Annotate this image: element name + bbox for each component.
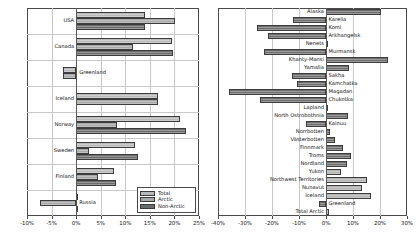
- category-label-norway: Norway: [0, 122, 74, 127]
- bar-arctic-iceland: [76, 99, 158, 104]
- bar-yamalia: [326, 65, 349, 71]
- xtick-label-4: 0%: [313, 221, 339, 226]
- bar-texture: [327, 178, 366, 182]
- category-label-alaska: Alaska: [228, 9, 324, 14]
- xtick-4: [326, 216, 327, 219]
- bar-kainuu: [306, 121, 326, 127]
- category-label-norrbotten: Norrbotten: [228, 129, 324, 134]
- zero-axis-line: [76, 8, 77, 216]
- bar-texture: [327, 130, 329, 134]
- category-label-finnmark: Finnmark: [228, 145, 324, 150]
- bar-chukotka: [260, 97, 326, 103]
- category-label-murmansk: Murmansk: [329, 49, 418, 54]
- category-label-lapland: Lapland: [228, 105, 324, 110]
- bar-texture: [327, 170, 340, 174]
- bar-arctic-greenland: [63, 73, 76, 78]
- bar-vsterbotten: [326, 137, 335, 143]
- xtick-0: [218, 216, 219, 219]
- category-label-komi: Komi: [329, 25, 418, 30]
- legend-row-arctic: Arctic: [140, 197, 193, 203]
- category-label-northwestterritories: Northwest Territories: [228, 177, 324, 182]
- xtick-label-2: 0%: [63, 221, 89, 226]
- xtick-label-5: 10%: [340, 221, 366, 226]
- bar-greenland: [319, 201, 326, 207]
- bar-texture: [327, 66, 348, 70]
- bar-texture: [327, 194, 370, 198]
- bar-texture: [320, 202, 325, 206]
- bar-texture: [77, 94, 157, 97]
- xtick-label-3: -10%: [286, 221, 312, 226]
- bar-texture: [64, 74, 75, 77]
- bar-texture: [77, 45, 132, 48]
- bar-karelia: [293, 17, 326, 23]
- bar-texture: [77, 143, 134, 146]
- category-label-nunavut: Nunavut: [228, 185, 324, 190]
- xtick-1: [52, 216, 53, 219]
- bar-alaska: [326, 9, 381, 15]
- xtick-2: [76, 216, 77, 219]
- xtick-4: [125, 216, 126, 219]
- xtick-1: [245, 216, 246, 219]
- xtick-6: [380, 216, 381, 219]
- bar-texture: [261, 98, 325, 102]
- bar-magadan: [229, 89, 326, 95]
- legend-label-total: Total: [158, 191, 170, 196]
- category-label-arkhangelsk: Arkhangelsk: [329, 33, 418, 38]
- left-chart-panel: -10%-5%0%5%10%15%20%25%USACanadaGreenlan…: [0, 0, 206, 238]
- bar-texture: [327, 186, 361, 190]
- bar-total-norway: [76, 116, 180, 121]
- bar-texture: [77, 39, 171, 42]
- xtick-7: [407, 216, 408, 219]
- xtick-5: [353, 216, 354, 219]
- xtick-5: [150, 216, 151, 219]
- xtick-label-3: 5%: [88, 221, 114, 226]
- bar-northwestterritories: [326, 177, 367, 183]
- xtick-label-1: -30%: [232, 221, 258, 226]
- bar-texture: [327, 114, 347, 118]
- legend-swatch-arctic-icon: [140, 197, 155, 202]
- category-label-troms: Troms: [228, 153, 324, 158]
- bar-texture: [77, 19, 174, 22]
- bar-texture: [77, 51, 172, 54]
- bar-arkhangelsk: [268, 33, 326, 39]
- bar-texture: [77, 175, 97, 178]
- xtick-0: [27, 216, 28, 219]
- bar-texture: [77, 149, 88, 152]
- bar-total-canada: [76, 38, 172, 43]
- bar-texture: [327, 58, 387, 62]
- xtick-6: [174, 216, 175, 219]
- bar-texture: [77, 13, 144, 16]
- xtick-label-0: -40%: [205, 221, 231, 226]
- xtick-label-7: 30%: [394, 221, 418, 226]
- bar-texture: [327, 154, 350, 158]
- bar-texture: [327, 210, 328, 214]
- category-label-greenland: Greenland: [79, 70, 163, 75]
- category-label-magadan: Magadan: [329, 89, 418, 94]
- category-label-vsterbotten: Västerbotten: [228, 137, 324, 142]
- xtick-3: [101, 216, 102, 219]
- right-chart-panel: -40%-30%-20%-10%0%10%20%30%AlaskaKarelia…: [206, 0, 413, 238]
- zero-axis-line: [326, 8, 327, 216]
- bar-khantymansi: [326, 57, 388, 63]
- bar-troms: [326, 153, 351, 159]
- bar-texture: [77, 25, 144, 28]
- xtick-label-6: 20%: [367, 221, 393, 226]
- category-label-iceland: Iceland: [228, 193, 324, 198]
- chart-legend: Total Arctic Non-Arctic: [137, 187, 196, 213]
- bar-total-sweden: [76, 142, 135, 147]
- bar-nonarctic-norway: [76, 128, 186, 133]
- bar-yukon: [326, 169, 341, 175]
- gridline-x-6: [380, 8, 381, 216]
- category-label-northostrobothnia: North Ostrobothnia: [228, 113, 324, 118]
- bar-texture: [77, 181, 115, 184]
- bar-texture: [77, 100, 157, 103]
- bar-texture: [327, 162, 346, 166]
- category-label-finland: Finland: [0, 174, 74, 179]
- gridline-y-2: [27, 60, 199, 61]
- bar-texture: [327, 10, 380, 14]
- bar-arctic-sweden: [76, 148, 89, 153]
- bar-texture: [64, 68, 75, 71]
- gridline-y-3: [27, 86, 199, 87]
- bar-nonarctic-finland: [76, 180, 116, 185]
- bar-texture: [77, 155, 136, 158]
